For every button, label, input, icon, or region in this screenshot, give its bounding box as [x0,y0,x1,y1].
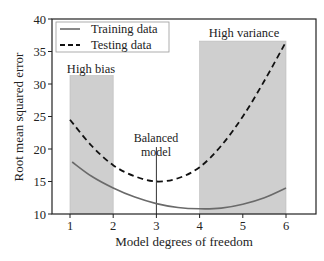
y-tick-label: 10 [34,208,47,222]
y-axis-label: Root mean squared error [11,52,26,182]
y-axis-ticks: 10152025303540 [34,13,53,222]
legend-testing-label: Testing data [91,38,152,52]
x-tick-label: 5 [240,219,246,233]
y-tick-label: 40 [34,13,47,27]
balanced-model-annotation-line2: model [141,145,172,159]
x-tick-label: 6 [283,219,289,233]
rmse-chart: 123456 10152025303540 Model degrees of f… [0,0,324,261]
high-variance-annotation: High variance [209,26,280,40]
y-tick-label: 15 [34,175,47,189]
x-axis-ticks: 123456 [67,214,289,233]
high-bias-annotation: High bias [67,62,115,76]
legend: Training data Testing data [56,22,169,52]
x-axis-label: Model degrees of freedom [115,234,253,249]
x-tick-label: 2 [110,219,116,233]
y-tick-label: 20 [34,143,47,157]
balanced-model-annotation-line1: Balanced [134,131,179,145]
x-tick-label: 4 [196,219,203,233]
legend-training-label: Training data [91,22,158,36]
x-tick-label: 1 [67,219,73,233]
x-tick-label: 3 [153,219,159,233]
y-tick-label: 35 [34,45,47,59]
y-tick-label: 25 [34,110,47,124]
y-tick-label: 30 [34,78,47,92]
